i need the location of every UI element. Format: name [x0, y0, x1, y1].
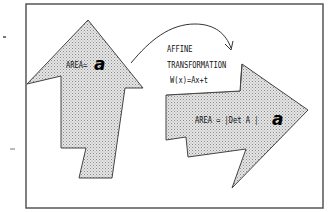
source-area-text: AREA= [66, 60, 87, 70]
transform-formula: W(x)=Ax+t [170, 76, 208, 85]
source-area-label: AREA= [66, 61, 87, 70]
diagram-svg [0, 0, 328, 212]
transform-title-line1: AFFINE [167, 45, 192, 54]
transform-title-line2: TRANSFORMATION [167, 61, 226, 70]
target-area-label: AREA = |Det A | [195, 116, 258, 125]
target-area-symbol: a [272, 109, 283, 129]
diagram-canvas: AREA= a AFFINE TRANSFORMATION W(x)=Ax+t … [0, 0, 328, 212]
source-area-symbol: a [94, 54, 105, 74]
margin-mark [10, 148, 15, 150]
margin-mark [3, 36, 6, 38]
